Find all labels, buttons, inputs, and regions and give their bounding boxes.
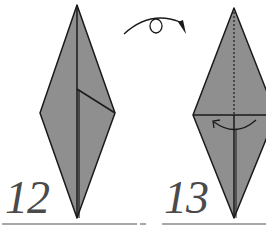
step-12-model (40, 5, 115, 218)
turn-over-arrow-icon (124, 18, 186, 34)
step-12-number: 12 (5, 175, 49, 221)
step-13-number: 13 (164, 175, 208, 221)
origami-diagram: 12 13 (0, 0, 266, 234)
